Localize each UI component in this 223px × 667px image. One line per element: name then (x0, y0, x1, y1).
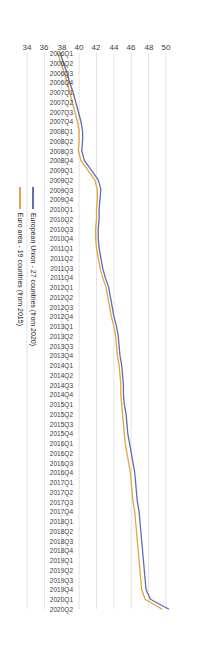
value-tick-label: 46 (127, 43, 136, 53)
chart-legend: European Union - 27 countries (from 2020… (3, 187, 27, 517)
value-tick-label: 50 (162, 43, 171, 53)
category-tick-label: 2008Q1 (28, 128, 73, 135)
category-tick-label: 2007Q3 (28, 108, 73, 115)
category-tick-label: 2018Q3 (28, 537, 73, 544)
category-tick-label: 2018Q1 (28, 518, 73, 525)
category-tick-label: 2018Q2 (28, 527, 73, 534)
category-tick-label: 2006Q4 (28, 79, 73, 86)
value-tick-label: 42 (92, 43, 101, 53)
category-tick-label: 2007Q1 (28, 89, 73, 96)
category-tick-label: 2019Q1 (28, 557, 73, 564)
category-tick-label: 2006Q3 (28, 69, 73, 76)
category-tick-label: 2019Q2 (28, 566, 73, 573)
value-tick-label: 44 (109, 43, 118, 53)
chart-figure: 504846444240383634 2006Q12006Q22006Q3200… (0, 0, 223, 667)
category-tick-label: 2008Q4 (28, 157, 73, 164)
category-tick-label: 2009Q2 (28, 176, 73, 183)
legend-color-swatch (32, 187, 34, 209)
legend-label: European Union - 27 countries (from 2020… (29, 213, 37, 346)
category-tick-label: 2019Q4 (28, 586, 73, 593)
category-tick-label: 2007Q2 (28, 98, 73, 105)
category-tick-label: 2020Q2 (28, 606, 73, 613)
legend-label: Euro area - 19 countries (from 2015) (16, 213, 24, 326)
category-tick-label: 2007Q4 (28, 118, 73, 125)
series-line-euro19 (57, 53, 161, 609)
value-tick-label: 48 (144, 43, 153, 53)
category-tick-label: 2006Q1 (28, 50, 73, 57)
legend-item: European Union - 27 countries (from 2020… (27, 187, 39, 517)
value-tick-label: 40 (75, 43, 84, 53)
category-tick-label: 2020Q1 (28, 596, 73, 603)
category-tick-label: 2018Q4 (28, 547, 73, 554)
legend-color-swatch (19, 187, 21, 209)
category-tick-label: 2006Q2 (28, 59, 73, 66)
category-tick-label: 2008Q2 (28, 137, 73, 144)
category-tick-label: 2009Q1 (28, 167, 73, 174)
legend-item: Euro area - 19 countries (from 2015) (14, 187, 26, 517)
chart-figure-rotated: 504846444240383634 2006Q12006Q22006Q3200… (0, 0, 223, 667)
category-tick-label: 2019Q3 (28, 576, 73, 583)
category-tick-label: 2008Q3 (28, 147, 73, 154)
